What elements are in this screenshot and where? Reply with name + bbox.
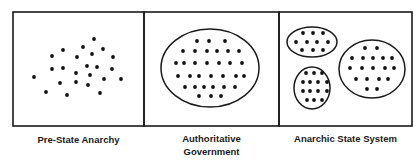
individual-dot	[321, 48, 325, 52]
individual-dot	[102, 77, 106, 81]
individual-dot	[320, 71, 324, 75]
individual-dot	[61, 48, 65, 52]
individual-dot	[312, 71, 316, 75]
individual-dot	[365, 77, 369, 81]
individual-dot	[350, 56, 354, 60]
individual-dot	[311, 31, 315, 35]
individual-dot	[61, 66, 65, 70]
individual-dot	[74, 80, 78, 84]
individual-dot	[74, 71, 78, 75]
individual-dot	[240, 61, 244, 65]
individual-dot	[312, 98, 316, 102]
individual-dot	[325, 80, 329, 84]
individual-dot	[44, 90, 48, 94]
individual-dot	[85, 64, 89, 68]
individual-dot	[301, 89, 305, 93]
individual-dot	[361, 56, 365, 60]
individual-dot	[95, 65, 99, 69]
individual-dot	[193, 49, 197, 53]
individual-dot	[65, 93, 69, 97]
individual-dots	[32, 31, 396, 102]
individual-dot	[32, 75, 36, 79]
individual-dot	[221, 74, 225, 78]
individual-dot	[237, 49, 241, 53]
individual-dot	[193, 85, 197, 89]
individual-dot	[217, 61, 221, 65]
individual-dot	[377, 77, 381, 81]
individual-dot	[234, 74, 238, 78]
individual-dot	[205, 61, 209, 65]
individual-dot	[88, 73, 92, 77]
label-authoritative-line1: Authoritative	[144, 132, 279, 145]
individual-dot	[101, 47, 105, 51]
individual-dot	[195, 39, 199, 43]
label-anarchic-state-system: Anarchic State System	[279, 132, 412, 145]
individual-dot	[75, 55, 79, 59]
label-pre-state-anarchy: Pre-State Anarchy	[13, 133, 144, 146]
label-authoritative-line2: Government	[144, 145, 279, 158]
individual-dot	[233, 85, 237, 89]
individual-dot	[371, 66, 375, 70]
individual-dot	[360, 66, 364, 70]
individual-dot	[223, 39, 227, 43]
individual-dot	[308, 80, 312, 84]
individual-dot	[301, 31, 305, 35]
individual-dot	[326, 40, 330, 44]
individual-dot	[58, 81, 62, 85]
individual-dot	[86, 83, 90, 87]
individual-dot	[386, 77, 390, 81]
individual-dot	[390, 56, 394, 60]
individual-dot	[98, 91, 102, 95]
individual-dot	[301, 80, 305, 84]
individual-dot	[222, 85, 226, 89]
individual-dot	[316, 80, 320, 84]
individual-dot	[375, 46, 379, 50]
individual-dot	[209, 74, 213, 78]
individual-dot	[50, 54, 54, 58]
individual-dot	[197, 94, 201, 98]
individual-dot	[365, 87, 369, 91]
individual-dot	[392, 66, 396, 70]
individual-dot	[315, 40, 319, 44]
individual-dot	[300, 48, 304, 52]
individual-dot	[193, 61, 197, 65]
individual-dot	[197, 74, 201, 78]
individual-dot	[375, 87, 379, 91]
individual-dot	[181, 49, 185, 53]
individual-dot	[305, 40, 309, 44]
individual-dot	[111, 55, 115, 59]
individual-dot	[381, 56, 385, 60]
individual-dot	[119, 77, 123, 81]
individual-dot	[209, 94, 213, 98]
individual-dot	[183, 85, 187, 89]
individual-dot	[228, 61, 232, 65]
individual-dot	[311, 48, 315, 52]
individual-dot	[219, 94, 223, 98]
individual-dot	[305, 98, 309, 102]
individual-dot	[354, 77, 358, 81]
individual-dot	[321, 31, 325, 35]
individual-dot	[90, 52, 94, 56]
individual-dot	[50, 67, 54, 71]
state-boundary-ellipse	[294, 67, 330, 109]
individual-dot	[348, 66, 352, 70]
individual-dot	[242, 74, 246, 78]
individual-dot	[320, 98, 324, 102]
individual-dot	[81, 45, 85, 49]
individual-dot	[304, 71, 308, 75]
individual-dot	[325, 89, 329, 93]
individual-dot	[226, 49, 230, 53]
individual-dot	[188, 74, 192, 78]
individual-dot	[174, 61, 178, 65]
individual-dot	[207, 39, 211, 43]
individual-dot	[308, 89, 312, 93]
individual-dot	[215, 49, 219, 53]
individual-dot	[371, 56, 375, 60]
individual-dot	[182, 61, 186, 65]
individual-dot	[316, 89, 320, 93]
individual-dot	[205, 49, 209, 53]
individual-dot	[383, 66, 387, 70]
individual-dot	[363, 46, 367, 50]
individual-dot	[202, 85, 206, 89]
individual-dot	[176, 74, 180, 78]
